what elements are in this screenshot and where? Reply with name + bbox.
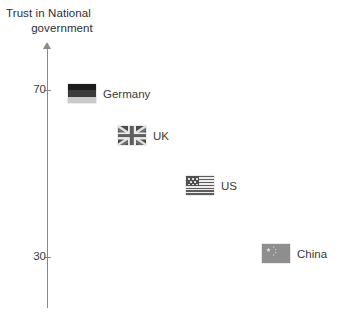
data-point-uk: UK: [118, 126, 169, 145]
data-point-label-germany: Germany: [103, 88, 150, 100]
data-point-us: US: [186, 176, 237, 195]
data-point-label-china: China: [297, 248, 327, 260]
y-axis-line: [47, 48, 48, 308]
chart-canvas: Trust in National government 70 30 Germa…: [0, 0, 348, 317]
y-axis-title: Trust in National government: [4, 6, 134, 36]
china-flag-icon: [262, 244, 290, 263]
uk-flag-icon: [118, 126, 146, 145]
germany-flag-icon: [68, 84, 96, 103]
y-tick-label-30: 30: [6, 250, 46, 262]
data-point-label-uk: UK: [153, 130, 169, 142]
y-axis-title-line-1: Trust in National: [4, 6, 134, 21]
data-point-china: China: [262, 244, 327, 263]
y-axis-title-line-2: government: [4, 21, 134, 36]
y-tick-label-70: 70: [6, 83, 46, 95]
us-flag-icon: [186, 176, 214, 195]
data-point-label-us: US: [221, 180, 237, 192]
data-point-germany: Germany: [68, 84, 150, 103]
